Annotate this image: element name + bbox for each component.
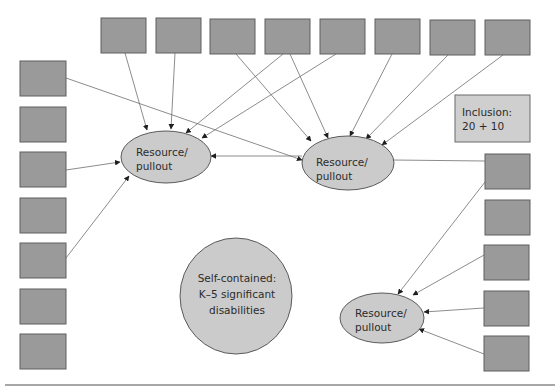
edge-top4-resource2	[290, 54, 328, 138]
student-box-left-2	[20, 107, 66, 142]
student-box-top-6	[375, 19, 420, 54]
student-box-left-4	[20, 198, 66, 233]
service-model-diagram: Resource/ pullout Resource/ pullout Reso…	[0, 0, 555, 392]
left-column-students	[20, 61, 66, 369]
edge-top2-resource1	[171, 53, 175, 129]
student-box-right-4	[484, 291, 529, 326]
student-box-top-2	[156, 18, 201, 53]
student-box-top-5	[320, 19, 365, 54]
self-contained-node: Self-contained: K–5 significant disabili…	[180, 238, 292, 354]
resource-1-line1: Resource/	[136, 146, 188, 158]
student-box-top-1	[101, 18, 146, 53]
self-contained-line1: Self-contained:	[198, 272, 277, 284]
self-contained-line2: K–5 significant	[199, 288, 275, 300]
student-box-top-3	[210, 19, 255, 54]
student-box-top-4	[265, 19, 310, 54]
student-box-right-5	[484, 336, 529, 371]
student-box-right-3	[484, 245, 529, 280]
edge-left3-resource1	[66, 162, 120, 170]
edge-top1-resource1	[125, 53, 147, 130]
student-box-top-7	[430, 20, 475, 55]
resource-pullout-node-2: Resource/ pullout	[302, 136, 394, 190]
resource-3-line1: Resource/	[355, 307, 407, 319]
edge-right1-resource3	[398, 182, 485, 294]
student-box-top-8	[485, 20, 530, 55]
top-row-students	[101, 18, 530, 55]
self-contained-line3: disabilities	[209, 304, 265, 316]
inclusion-line2: 20 + 10	[462, 120, 504, 132]
student-box-right-2	[485, 200, 530, 235]
edge-right5-resource3	[419, 329, 484, 354]
resource-2-line2: pullout	[316, 170, 352, 182]
resource-2-line1: Resource/	[316, 156, 368, 168]
edge-left5-resource1	[66, 176, 129, 258]
edge-top5-resource1	[202, 54, 336, 138]
resource-1-line2: pullout	[136, 160, 172, 172]
resource-pullout-node-3: Resource/ pullout	[340, 293, 424, 343]
inclusion-line1: Inclusion:	[462, 106, 512, 118]
edge-top3-resource2	[236, 54, 311, 141]
inclusion-node: Inclusion: 20 + 10	[455, 95, 530, 142]
student-box-left-6	[20, 289, 66, 324]
student-box-left-1	[20, 61, 66, 96]
edge-top4-resource1	[186, 54, 283, 133]
right-column-students	[484, 154, 530, 371]
student-box-left-7	[20, 334, 66, 369]
edge-top6-resource2	[350, 54, 392, 136]
student-box-left-5	[20, 243, 66, 278]
edge-resource2-right1	[393, 160, 485, 161]
student-box-left-3	[20, 152, 66, 187]
resource-3-line2: pullout	[355, 321, 391, 333]
resource-pullout-node-1: Resource/ pullout	[121, 131, 211, 183]
student-box-right-1	[485, 154, 530, 189]
edge-right4-resource3	[424, 308, 484, 312]
